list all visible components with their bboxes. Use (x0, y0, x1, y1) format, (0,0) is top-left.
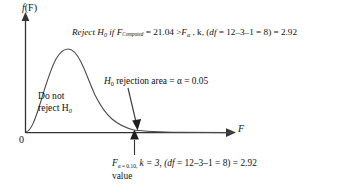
reject-statement-df-value: = 12–3–1 = 8) = 2.92 (216, 27, 297, 37)
critical-value-pointer-arrow (130, 130, 139, 156)
do-not-reject-line1: Do not (38, 90, 64, 101)
critical-value-df-word: df (167, 158, 174, 168)
y-axis (22, 12, 30, 133)
rejection-area-h: H (104, 76, 111, 86)
critical-value-df-value: = 12–3–1 = 8) = 2.92 (175, 158, 257, 168)
y-axis-label-rest: (F) (25, 2, 37, 13)
critical-value-f-sub: α = 0.10, (118, 163, 138, 169)
rejection-area-pointer-arrow (128, 88, 141, 131)
rejection-area-label: H0 rejection area = α = 0.05 (104, 76, 208, 87)
reject-statement-f-sub: Computed (122, 31, 143, 37)
reject-statement-lead: Reject H (72, 27, 104, 37)
do-not-reject-label: Do notreject H0 (38, 90, 72, 115)
reject-statement-value: = 21.04 > (143, 27, 181, 37)
rejection-area-text: rejection area = α = 0.05 (114, 76, 208, 86)
reject-statement-tail: , k, ( (190, 27, 209, 37)
do-not-reject-line2-sub: 0 (69, 107, 72, 114)
origin-label: 0 (19, 134, 24, 146)
y-axis-label: f(F) (22, 2, 37, 14)
critical-value-k: k = 3, ( (137, 158, 167, 168)
reject-statement-if: if (107, 27, 117, 37)
reject-statement: Reject H0 if FComputed = 21.04 >Fα , k, … (72, 27, 297, 39)
f-distribution-figure: f(F) F 0 Reject H0 if FComputed = 21.04 … (0, 0, 354, 195)
critical-value-label: Fα = 0.10, k = 3, (df = 12–3–1 = 8) = 2.… (112, 157, 257, 182)
do-not-reject-line2: reject H (38, 102, 69, 113)
x-axis-label: F (238, 123, 244, 135)
critical-value-second-line: value (112, 171, 132, 181)
